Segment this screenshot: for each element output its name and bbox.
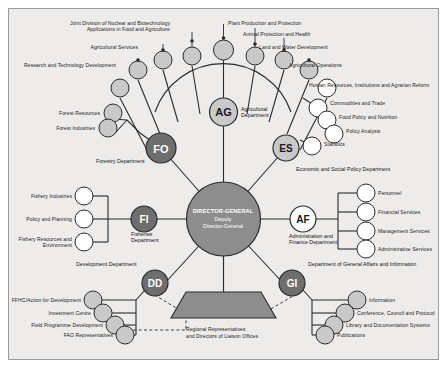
diagram-root: AG ES AF GI DD FI FO DIRECTOR-GENERAL De… [0, 0, 447, 368]
regional-reps-line1: Regional Representatives [186, 326, 246, 332]
division-label-ag-6: Agricultural Operations [289, 62, 342, 68]
division-label-es-2: Food Policy and Nutrition [339, 114, 397, 120]
dept-name-es: Economic and Social Policy Department [296, 166, 390, 172]
deputy-director-general-label: Director-General [186, 223, 260, 229]
hub-code-fi: FI [140, 214, 149, 225]
division-label-ag-0: Research and Technology Development [12, 62, 116, 68]
division-label-es-4: Statistics [324, 141, 345, 147]
regional-reps-line2: and Directors of Liaison Offices [186, 333, 258, 339]
division-label-af-3: Administrative Services [378, 246, 432, 252]
af-division-nodes [357, 184, 375, 258]
division-label-es-1: Commodities and Trade [330, 100, 385, 106]
division-label-gi-1: Conference, Council and Protocol [357, 310, 435, 316]
dept-name-fi: Fisheries Department [131, 231, 165, 244]
division-label-gi-0: Information [369, 297, 395, 303]
division-label-dd-3: FAO Representatives [40, 332, 113, 338]
dept-name-ag-text: Agricultural Department [241, 106, 287, 119]
division-label-ag-5: Land and Water Development [259, 44, 328, 50]
division-label-dd-0: FFHC/Action for Development [6, 297, 81, 303]
dept-name-af: Administration and Finance Department [289, 233, 341, 246]
division-label-es-0: Human Resources, Institutions and Agrari… [309, 82, 429, 88]
division-label-ag-2: Joint Division of Nuclear and Biotechnol… [60, 20, 170, 32]
division-label-dd-1: Investment Centre [20, 310, 91, 316]
division-label-fo-0: Forest Resources [22, 110, 100, 116]
hub-code-gi: GI [287, 278, 298, 289]
division-label-fi-1: Policy and Planning [8, 216, 72, 222]
dept-name-ag: Agricultural Department [241, 106, 301, 119]
division-label-fo-1: Forest Industries [22, 125, 95, 131]
division-label-fi-0: Fishery Industries [8, 193, 72, 199]
division-label-gi-2: Library and Documentation Systems [346, 322, 430, 328]
director-general-title: DIRECTOR-GENERAL [186, 208, 260, 214]
hub-code-fo: FO [153, 143, 169, 155]
fi-division-nodes [75, 187, 93, 251]
hub-code-dd: DD [148, 278, 162, 289]
division-label-ag-1: Agricultural Services [60, 44, 138, 50]
dept-name-dd: Development Department [76, 261, 136, 267]
dept-name-gi: Department of General Affairs and Inform… [308, 261, 416, 267]
regional-representatives-block [171, 292, 276, 318]
fo-division-nodes [99, 104, 122, 137]
division-label-af-1: Financial Services [378, 209, 420, 215]
division-label-af-0: Personnel [378, 190, 401, 196]
hub-code-ag: AG [215, 106, 232, 118]
hub-code-es: ES [279, 143, 293, 154]
dept-name-fo: Forestry Department [96, 158, 145, 164]
division-label-ag-4: Animal Protection and Health [243, 31, 310, 37]
deputy-label: Deputy [186, 216, 260, 222]
division-label-es-3: Policy Analysis [346, 128, 380, 134]
division-label-fi-2: Fishery Resources and Environment [8, 236, 72, 248]
division-label-af-2: Management Services [378, 228, 430, 234]
division-label-dd-2: Field Programme Development [20, 322, 103, 328]
hub-code-af: AF [296, 214, 309, 225]
division-label-gi-3: Publications [337, 332, 365, 338]
division-label-ag-3: Plant Production and Protection [228, 20, 301, 26]
